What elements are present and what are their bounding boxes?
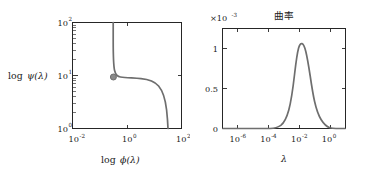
l-curve-panel: 10 0 10 1 10 2 10 -2 10 0 10 2 log ψ(λ): [0, 0, 190, 182]
x-tick-exponent-0: -2: [80, 133, 86, 139]
y-axis-label-function: ψ(λ): [27, 70, 48, 81]
y-exponent-prefix: ×10: [210, 13, 227, 23]
x-axis-label: λ: [280, 153, 287, 164]
y-tick-labels: 0 0.5 1: [205, 44, 218, 134]
y-tick-exponent-0: 0: [69, 122, 73, 128]
y-ticks: [223, 49, 346, 129]
x-tick-label-1: 10: [122, 134, 132, 144]
y-tick-label-1: 0.5: [205, 84, 218, 94]
x-tick-labels: 10 -6 10 -4 10 -2 10 0: [230, 133, 337, 145]
l-curve-line: [113, 23, 168, 129]
l-curve-corner-marker: [110, 74, 116, 80]
x-axis-label-function: ϕ(λ): [120, 154, 140, 165]
y-axis-label-log: log: [8, 70, 23, 81]
axes-frame: [73, 23, 182, 129]
y-tick-label-0: 10: [58, 124, 68, 134]
x-tick-label-2: 10: [176, 134, 186, 144]
y-tick-label-2: 10: [58, 18, 68, 28]
y-exponent-label: ×10 -3: [210, 12, 237, 24]
y-tick-label-1: 10: [58, 71, 68, 81]
y-tick-label-2: 1: [213, 44, 218, 54]
chart-title: 曲率: [274, 10, 294, 21]
l-curve-axes: [73, 23, 182, 129]
y-tick-label-0: 0: [213, 124, 218, 134]
x-tick-exponent-3: 0: [333, 133, 337, 139]
curvature-line: [223, 44, 345, 129]
y-tick-exponent-2: 2: [69, 16, 73, 22]
curvature-svg: 曲率 ×10 -3: [190, 0, 377, 182]
y-axis-label: log ψ(λ): [8, 70, 48, 81]
x-tick-exponent-2: -2: [302, 133, 308, 139]
curvature-axes: [223, 29, 346, 129]
x-tick-label-3: 10: [322, 134, 332, 144]
x-tick-exponent-1: 0: [133, 133, 137, 139]
axes-frame: [223, 29, 346, 129]
y-tick-exponent-1: 1: [69, 69, 73, 75]
figure-container: 10 0 10 1 10 2 10 -2 10 0 10 2 log ψ(λ): [0, 0, 377, 182]
x-tick-label-0: 10: [230, 134, 240, 144]
x-tick-label-0: 10: [69, 134, 79, 144]
x-tick-label-1: 10: [260, 134, 270, 144]
y-major-ticks: [73, 23, 182, 129]
x-tick-label-2: 10: [291, 134, 301, 144]
l-curve-svg: 10 0 10 1 10 2 10 -2 10 0 10 2 log ψ(λ): [0, 0, 190, 182]
x-ticks: [238, 29, 330, 129]
y-tick-labels: 10 0 10 1 10 2: [58, 16, 73, 134]
y-exponent-superscript: -3: [232, 12, 238, 18]
x-tick-exponent-0: -6: [241, 133, 247, 139]
x-axis-label: log ϕ(λ): [101, 154, 140, 165]
x-tick-exponent-1: -4: [271, 133, 277, 139]
x-axis-label-log: log: [101, 154, 116, 165]
curvature-panel: 曲率 ×10 -3: [190, 0, 377, 182]
x-tick-labels: 10 -2 10 0 10 2: [69, 133, 191, 145]
